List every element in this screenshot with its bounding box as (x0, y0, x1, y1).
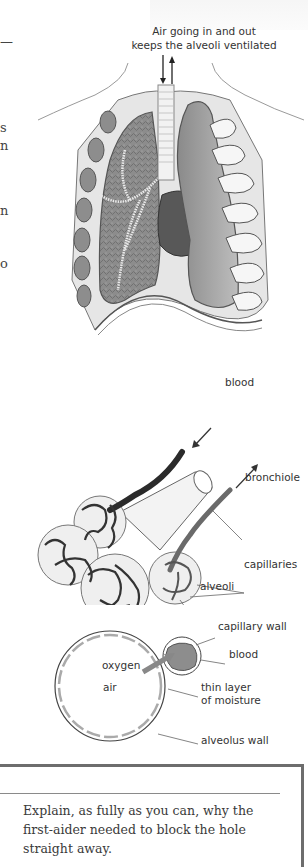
question-text: Explain, as fully as you can, why the fi… (23, 801, 283, 858)
answer-rule (0, 793, 280, 794)
label-oxygen: oxygen (102, 659, 140, 672)
label-blood: blood (225, 376, 254, 389)
label-alveolus-wall: alveolus wall (201, 734, 269, 747)
label-bronchiole: bronchiole (245, 471, 300, 484)
lungs-illustration (0, 0, 308, 345)
label-blood-capillary: blood (229, 648, 258, 661)
label-capillary-wall: capillary wall (218, 620, 287, 633)
label-alveoli: alveoli (200, 580, 234, 593)
label-capillaries: capillaries (244, 558, 297, 571)
label-air: air (103, 681, 117, 694)
label-thin-layer-moisture: thin layer of moisture (201, 681, 261, 707)
gas-exchange-illustration (0, 612, 308, 752)
